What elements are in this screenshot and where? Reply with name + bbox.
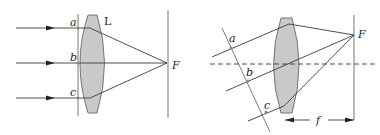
point-c xyxy=(77,97,80,100)
label-b: b xyxy=(70,51,77,64)
left-panel: a b c L F xyxy=(16,10,180,118)
ray-a-refracted xyxy=(289,24,354,35)
label-c: c xyxy=(70,86,76,99)
label-focal-length: f xyxy=(315,114,322,127)
arrow-right-icon xyxy=(345,118,354,123)
point-a xyxy=(230,47,233,50)
label-c: c xyxy=(264,99,270,112)
label-a: a xyxy=(229,32,236,45)
label-a: a xyxy=(70,16,77,29)
point-b xyxy=(247,80,250,83)
lens-right xyxy=(274,18,300,113)
arrow-icon xyxy=(46,96,55,101)
arrow-icon xyxy=(46,61,55,66)
label-focus: F xyxy=(171,59,180,72)
label-b: b xyxy=(246,66,253,79)
label-focus: F xyxy=(357,28,366,41)
arrow-left-icon xyxy=(285,118,294,123)
point-a xyxy=(77,27,80,30)
label-lens: L xyxy=(104,15,112,28)
optics-figure: a b c L F a b c F f xyxy=(0,0,380,135)
right-panel: a b c F f xyxy=(210,15,376,132)
arrow-icon xyxy=(46,26,55,31)
